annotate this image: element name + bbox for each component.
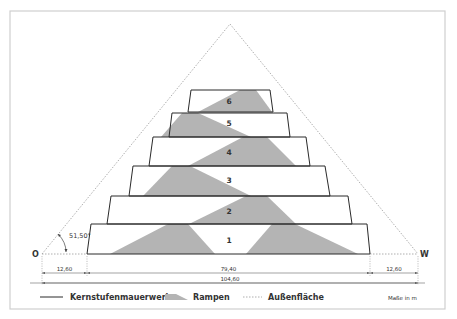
dimension-arrow-icon [367, 272, 370, 274]
dimension-arrow-icon [84, 272, 87, 274]
core-steps-group [87, 90, 370, 254]
dimension-arrow-icon [87, 272, 90, 274]
legend-ramp-swatch-icon [165, 294, 188, 300]
legend-label-ramps: Rampen [193, 293, 230, 302]
dimension-label: 104,60 [220, 276, 240, 282]
ramp-1 [110, 224, 215, 254]
units-note: Maße in m [388, 295, 417, 301]
step-label-3: 3 [226, 176, 231, 185]
dimension-label: 12,60 [386, 266, 402, 272]
east-label: O [32, 250, 39, 259]
ramp-3 [189, 196, 296, 224]
step-label-2: 2 [226, 207, 231, 216]
ramp-4 [143, 166, 251, 196]
dimension-label: 79,40 [221, 266, 237, 272]
legend-label-core: Kernstufenmauerwerk [70, 293, 172, 302]
legend: Kernstufenmauerwerk Rampen Außenfläche M… [40, 293, 417, 302]
angle-marker: 51,50° [58, 232, 91, 252]
angle-label: 51,50° [69, 232, 91, 240]
legend-label-outer-surface: Außenfläche [268, 293, 325, 302]
dimension-label: 12,60 [57, 266, 73, 272]
step-label-6: 6 [226, 97, 231, 106]
ramps-group [110, 90, 358, 254]
step-label-1: 1 [226, 236, 231, 245]
pyramid-ramp-diagram: 123456 51,50° O W 12,6079,4012,60104,60 … [0, 0, 457, 319]
ramp-7 [198, 90, 272, 112]
dimension-arrow-icon [42, 272, 45, 274]
step-label-4: 4 [226, 148, 231, 157]
ramp-6 [161, 113, 251, 137]
ramp-2 [246, 224, 358, 254]
dimension-lines: 12,6079,4012,60104,60 [30, 266, 425, 284]
dimension-arrow-icon [370, 272, 373, 274]
step-label-5: 5 [226, 119, 231, 128]
ramp-5 [188, 137, 296, 166]
west-label: W [420, 250, 429, 259]
dimension-arrow-icon [415, 272, 418, 274]
